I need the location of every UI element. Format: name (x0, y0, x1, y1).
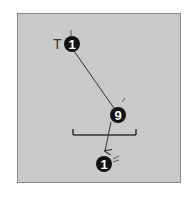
ball-1-end: 1 (96, 156, 112, 172)
shot-path-line (74, 51, 116, 111)
svg-text:1: 1 (68, 37, 75, 52)
tick-mark (122, 98, 125, 102)
svg-text:9: 9 (114, 108, 121, 123)
shot-path-arrow (105, 122, 111, 151)
svg-text:1: 1 (100, 157, 107, 172)
motion-line (113, 160, 119, 162)
ball-1-start: 1 (64, 36, 80, 52)
bracket (73, 129, 136, 135)
shot-diagram: 1 9 1 (0, 0, 195, 205)
motion-line (113, 156, 119, 159)
ball-9: 9 (110, 107, 126, 123)
